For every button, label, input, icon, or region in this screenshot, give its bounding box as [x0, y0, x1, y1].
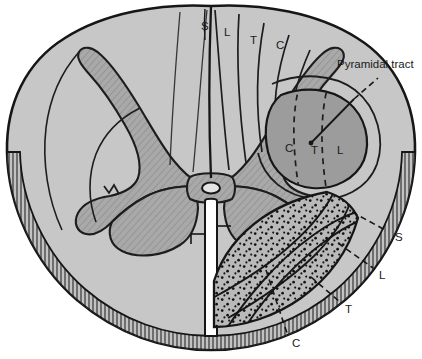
- dorsal-column-lumbar: L: [224, 27, 230, 39]
- spinothalamic-lumbar: L: [379, 270, 385, 282]
- dorsal-column-sacral: S: [201, 21, 209, 33]
- dorsal-column-cervical: C: [276, 40, 284, 52]
- spinal-cord-diagram: [0, 0, 422, 359]
- pyramidal-thoracic: T: [311, 145, 318, 157]
- central-canal: [202, 183, 220, 194]
- spinothalamic-cervical: C: [292, 338, 300, 350]
- figure-canvas: S L T C Pyramidal tract C T L S L T C: [0, 0, 422, 359]
- spinothalamic-thoracic: T: [345, 304, 352, 316]
- pyramidal-tract-label: Pyramidal tract: [337, 59, 414, 71]
- pyramidal-cervical: C: [285, 143, 293, 155]
- pyramidal-lumbar: L: [337, 145, 343, 157]
- dorsal-column-thoracic: T: [250, 35, 257, 47]
- spinothalamic-sacral: S: [395, 232, 403, 244]
